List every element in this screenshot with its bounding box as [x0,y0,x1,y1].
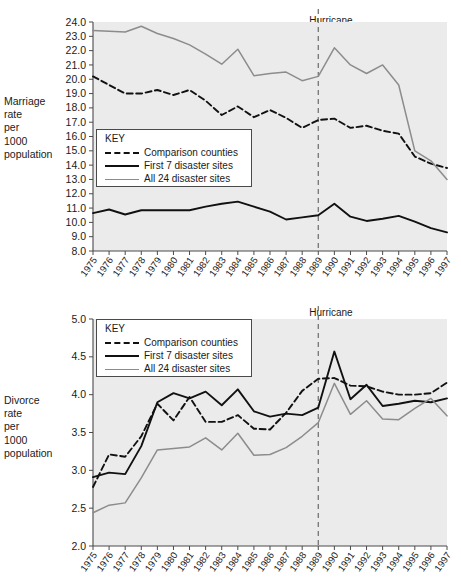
y-tick-label: 8.0 [71,245,86,257]
legend-entry-first-7: First 7 disaster sites [105,350,233,361]
x-tick-label: 1977 [110,550,131,574]
x-tick-label: 1988 [287,255,308,279]
x-tick-label: 1982 [191,255,212,279]
x-tick-label: 1986 [255,255,276,279]
y-tick-label: 12.0 [66,187,87,199]
y-tick-label: 11.0 [66,202,86,214]
legend-swatch-dashed-icon [105,342,139,344]
x-tick-label: 1991 [335,255,356,279]
x-tick-label: 1977 [110,255,131,279]
x-tick-label: 1984 [223,550,244,574]
y-tick-label: 3.5 [71,426,86,438]
legend-swatch-dashed-icon [105,152,139,154]
legend-label-comparison-counties: Comparison counties [144,147,238,158]
legend-label-all-24: All 24 disaster sites [144,363,230,374]
x-tick-label: 1978 [126,550,147,574]
y-tick-label: 5.0 [71,313,86,325]
legend-entry-all-24: All 24 disaster sites [105,173,230,184]
x-tick-label: 1976 [94,255,115,279]
x-tick-label: 1997 [432,255,453,279]
legend-label-first-7: First 7 disaster sites [144,160,233,171]
y-tick-label: 18.0 [66,101,87,113]
y-tick-label: 19.0 [66,87,87,99]
x-tick-label: 1987 [271,255,292,279]
x-tick-label: 1989 [303,550,324,574]
legend-label-first-7: First 7 disaster sites [144,350,233,361]
x-tick-label: 1975 [78,550,99,574]
x-tick-label: 1990 [319,255,340,279]
x-tick-label: 1975 [78,255,99,279]
x-tick-label: 1979 [142,255,163,279]
y-tick-label: 17.0 [66,116,87,128]
x-tick-label: 1989 [303,255,324,279]
legend-swatch-solid-gray-icon [105,369,139,370]
y-tick-label: 4.0 [71,388,86,400]
y-tick-label: 4.5 [71,350,86,362]
y-tick-label: 20.0 [66,73,87,85]
x-tick-label: 1980 [158,255,179,279]
x-tick-label: 1988 [287,550,308,574]
x-tick-label: 1991 [335,550,356,574]
legend-entry-comparison-counties: Comparison counties [105,337,238,348]
y-tick-label: 24.0 [66,16,87,28]
x-tick-label: 1985 [239,550,260,574]
legend-swatch-solid-dark-icon [105,355,139,357]
x-tick-label: 1982 [191,550,212,574]
x-tick-label: 1992 [352,255,373,279]
x-tick-label: 1981 [175,550,196,574]
y-tick-label: 21.0 [66,59,87,71]
legend-label-comparison-counties: Comparison counties [144,337,238,348]
legend-swatch-solid-gray-icon [105,179,139,180]
x-tick-label: 1994 [384,550,405,574]
x-tick-label: 1976 [94,550,115,574]
legend-swatch-solid-dark-icon [105,165,139,167]
x-tick-label: 1979 [142,550,163,574]
legend-label-all-24: All 24 disaster sites [144,173,230,184]
x-tick-label: 1995 [400,550,421,574]
y-tick-label: 13.0 [66,173,87,185]
legend-title: KEY [105,133,125,144]
legend-entry-all-24: All 24 disaster sites [105,363,230,374]
y-tick-label: 2.0 [71,540,86,552]
legend-entry-comparison-counties: Comparison counties [105,147,238,158]
x-tick-label: 1986 [255,550,276,574]
y-tick-label: 2.5 [71,502,86,514]
x-tick-label: 1985 [239,255,260,279]
legend-entry-first-7: First 7 disaster sites [105,160,233,171]
x-tick-label: 1981 [175,255,196,279]
legend-title: KEY [105,323,125,334]
x-tick-label: 1983 [207,550,228,574]
x-tick-label: 1978 [126,255,147,279]
marriage-rate-chart: Marriage rate per 1000 population Hurric… [0,0,461,292]
y-tick-label: 14.0 [66,159,87,171]
y-tick-label: 15.0 [66,144,87,156]
x-tick-label: 1980 [158,550,179,574]
x-tick-label: 1997 [432,550,453,574]
x-tick-label: 1993 [368,255,389,279]
x-tick-label: 1987 [271,550,292,574]
x-tick-label: 1995 [400,255,421,279]
x-tick-label: 1994 [384,255,405,279]
y-tick-label: 23.0 [66,30,87,42]
y-tick-label: 10.0 [66,216,87,228]
y-tick-label: 9.0 [71,230,86,242]
x-tick-label: 1993 [368,550,389,574]
legend-marriage: KEY Comparison counties First 7 disaster… [96,129,252,187]
x-tick-label: 1996 [416,550,437,574]
x-tick-label: 1992 [352,550,373,574]
x-tick-label: 1996 [416,255,437,279]
x-tick-label: 1983 [207,255,228,279]
x-tick-label: 1984 [223,255,244,279]
divorce-rate-chart: Divorce rate per 1000 population Hurrica… [0,292,461,585]
x-tick-label: 1990 [319,550,340,574]
y-tick-label: 3.0 [71,464,86,476]
legend-divorce: KEY Comparison counties First 7 disaster… [96,319,252,377]
y-tick-label: 22.0 [66,44,87,56]
y-tick-label: 16.0 [66,130,87,142]
